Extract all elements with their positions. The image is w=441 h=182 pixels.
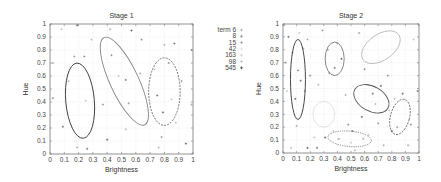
x-tick-label: 1 — [417, 155, 421, 162]
y-tick-label: 0.9 — [270, 33, 279, 40]
y-tick-label: 0.7 — [270, 59, 279, 66]
x-tick-label: 0.3 — [88, 156, 97, 163]
x-tick-label: 0.7 — [374, 155, 383, 162]
y-tick-label: 0.5 — [37, 85, 46, 92]
y-axis-label: Hue — [22, 82, 29, 95]
x-tick-label: 0.6 — [131, 156, 140, 163]
y-tick-label: 0.6 — [37, 72, 46, 79]
x-tick-label: 0 — [281, 155, 285, 162]
y-tick-label: 0.6 — [270, 72, 279, 79]
y-tick-label: 1 — [275, 20, 279, 27]
y-tick-label: 0.7 — [37, 59, 46, 66]
x-tick-label: 0.4 — [333, 155, 342, 162]
y-tick-label: 0.4 — [37, 98, 46, 105]
y-axis-label: Hue — [255, 82, 262, 95]
x-tick-label: 0.5 — [117, 156, 126, 163]
x-tick-label: 0.9 — [401, 155, 410, 162]
legend-label: 545 — [225, 64, 236, 71]
stage-2-plot: 00.10.20.30.40.50.60.70.80.9100.10.20.30… — [255, 12, 421, 173]
chart-figure: 00.10.20.30.40.50.60.70.80.9100.10.20.30… — [0, 0, 441, 182]
x-tick-label: 0.1 — [60, 156, 69, 163]
y-tick-label: 0.1 — [37, 137, 46, 144]
x-tick-label: 0.4 — [103, 156, 112, 163]
x-tick-label: 0.7 — [146, 156, 155, 163]
x-axis-label: Brightness — [105, 166, 139, 174]
x-tick-label: 0.6 — [360, 155, 369, 162]
y-tick-label: 0 — [275, 149, 279, 156]
y-tick-label: 0.4 — [270, 98, 279, 105]
chart-title: Stage 1 — [109, 12, 133, 20]
y-tick-label: 1 — [42, 20, 46, 27]
y-tick-label: 0.5 — [270, 85, 279, 92]
y-tick-label: 0.2 — [37, 124, 46, 131]
stage-1-plot: 00.10.20.30.40.50.60.70.80.9100.10.20.30… — [22, 12, 195, 174]
x-axis-label: Brightness — [334, 165, 368, 173]
chart-title: Stage 2 — [339, 12, 363, 20]
x-tick-label: 0.3 — [319, 155, 328, 162]
y-tick-label: 0.8 — [37, 46, 46, 53]
y-tick-label: 0.8 — [270, 46, 279, 53]
y-tick-label: 0.1 — [270, 136, 279, 143]
x-tick-label: 0.8 — [160, 156, 169, 163]
x-tick-label: 1 — [191, 156, 195, 163]
y-tick-label: 0.9 — [37, 33, 46, 40]
legend: term 68154216398545 — [218, 26, 243, 71]
y-tick-label: 0.3 — [37, 111, 46, 118]
x-tick-label: 0 — [48, 156, 52, 163]
x-tick-label: 0.1 — [292, 155, 301, 162]
x-tick-label: 0.9 — [174, 156, 183, 163]
x-tick-label: 0.5 — [346, 155, 355, 162]
y-tick-label: 0.3 — [270, 111, 279, 118]
x-tick-label: 0.2 — [74, 156, 83, 163]
y-tick-label: 0.2 — [270, 123, 279, 130]
y-tick-label: 0 — [42, 150, 46, 157]
x-tick-label: 0.8 — [387, 155, 396, 162]
x-tick-label: 0.2 — [306, 155, 315, 162]
